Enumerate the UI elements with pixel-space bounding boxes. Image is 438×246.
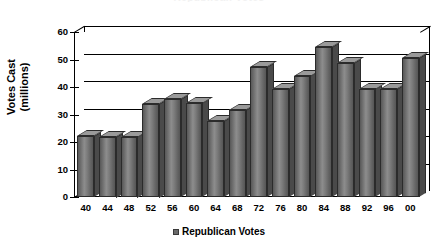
y-axis-tick-label: 20 [46,137,68,147]
x-axis-tick-label: 84 [312,202,336,213]
bar-side-face [419,54,426,197]
x-axis-tick-label: 48 [117,202,141,213]
x-axis-tick-label: 56 [160,202,184,213]
bar-front-face [315,47,332,197]
x-axis-tick-label: 64 [204,202,228,213]
x-axis-tick-label: 68 [225,202,249,213]
x-axis-tick-label: 60 [182,202,206,213]
bar-front-face [229,110,246,197]
y-axis-title-line-2: (millions) [18,22,31,152]
y-axis-tick-label: 40 [46,82,68,92]
bar [250,67,267,197]
bar [294,76,311,197]
y-axis-tick-label: 10 [46,165,68,175]
bar [380,89,397,197]
bar [207,121,224,197]
bar-front-face [164,99,181,197]
bar-front-face [207,121,224,197]
x-axis-tick-label: 44 [95,202,119,213]
bar-front-face [402,58,419,197]
bar [337,63,354,197]
bars-layer [74,26,430,198]
y-axis-tick-label: 0 [46,192,68,202]
bar-front-face [380,89,397,197]
bar [315,47,332,197]
x-axis-tick-label: 00 [398,202,422,213]
bar [142,104,159,198]
bar-front-face [272,89,289,197]
bar [77,136,94,197]
plot-area [74,26,430,198]
bar [186,103,203,197]
legend-swatch-icon [173,229,179,235]
y-axis-tick-label: 30 [46,110,68,120]
legend-item-label: Republican Votes [182,226,265,237]
legend: Republican Votes [0,226,438,237]
bar [99,137,116,198]
chart-title: Republican Votes [0,0,438,2]
y-axis-title-line-1: Votes Cast [5,22,18,152]
x-axis-tick-label: 96 [377,202,401,213]
bar [164,99,181,197]
bar [402,58,419,197]
bar-front-face [337,63,354,197]
bar-front-face [359,89,376,197]
bar [272,89,289,197]
y-axis-tick-label: 60 [46,27,68,37]
y-axis-title: Votes Cast (millions) [5,22,31,152]
bar [229,110,246,197]
x-axis-tick-label: 72 [247,202,271,213]
bar-front-face [250,67,267,197]
bar [121,137,138,198]
x-axis-tick-label: 88 [333,202,357,213]
bar-chart: Republican Votes Votes Cast (millions) 0… [0,0,438,246]
bar-front-face [77,136,94,197]
bar-front-face [99,137,116,198]
bar-front-face [186,103,203,197]
y-axis-tick-label: 50 [46,55,68,65]
bar [359,89,376,197]
x-axis-tick-label: 76 [268,202,292,213]
x-axis-tick-label: 92 [355,202,379,213]
bar-front-face [294,76,311,197]
x-axis-tick-label: 40 [74,202,98,213]
x-axis-tick-label: 52 [139,202,163,213]
bar-front-face [121,137,138,198]
bar-front-face [142,104,159,198]
x-axis-tick-label: 80 [290,202,314,213]
